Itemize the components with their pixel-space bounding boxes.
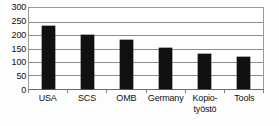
bar-omb <box>120 40 133 89</box>
bar-slot-tools <box>224 8 263 89</box>
y-tick-label-150: 150 <box>0 44 26 53</box>
y-tick-label-0: 0 <box>0 86 26 95</box>
x-label-omb: OMB <box>107 93 146 125</box>
x-label-tools: Tools <box>225 93 264 125</box>
y-tick-label-100: 100 <box>0 58 26 67</box>
x-label-kopio-tyosto-line2: työstö <box>185 104 224 115</box>
x-label-tools-line1: Tools <box>234 93 254 103</box>
bar-tools <box>237 57 250 89</box>
bar-germany <box>159 48 172 89</box>
bar-slot-scs <box>68 8 107 89</box>
bars-layer <box>29 8 263 89</box>
bar-scs <box>81 35 94 89</box>
bar-slot-kopio-tyosto <box>185 8 224 89</box>
x-label-germany: Germany <box>146 93 185 125</box>
x-label-scs: SCS <box>67 93 106 125</box>
y-axis: 300 250 200 150 100 50 0 <box>0 7 26 90</box>
bar-kopio-tyosto <box>198 54 211 89</box>
x-label-usa: USA <box>28 93 67 125</box>
y-tick-label-50: 50 <box>0 72 26 81</box>
x-label-germany-line1: Germany <box>148 93 184 103</box>
x-label-omb-line1: OMB <box>116 93 136 103</box>
y-tick-label-200: 200 <box>0 30 26 39</box>
bar-slot-usa <box>29 8 68 89</box>
bar-slot-germany <box>146 8 185 89</box>
x-label-usa-line1: USA <box>39 93 57 103</box>
bar-chart-figure: 300 250 200 150 100 50 0 <box>0 0 279 126</box>
bar-usa <box>42 26 55 89</box>
y-tick-label-250: 250 <box>0 16 26 25</box>
y-tick-label-300: 300 <box>0 3 26 12</box>
bar-slot-omb <box>107 8 146 89</box>
x-label-scs-line1: SCS <box>78 93 96 103</box>
x-axis-labels: USA SCS OMB Germany Kopio- työstö Tools <box>28 93 264 125</box>
x-label-kopio-tyosto: Kopio- työstö <box>185 93 224 125</box>
plot-area <box>28 7 264 90</box>
x-label-kopio-tyosto-line1: Kopio- <box>193 93 218 103</box>
